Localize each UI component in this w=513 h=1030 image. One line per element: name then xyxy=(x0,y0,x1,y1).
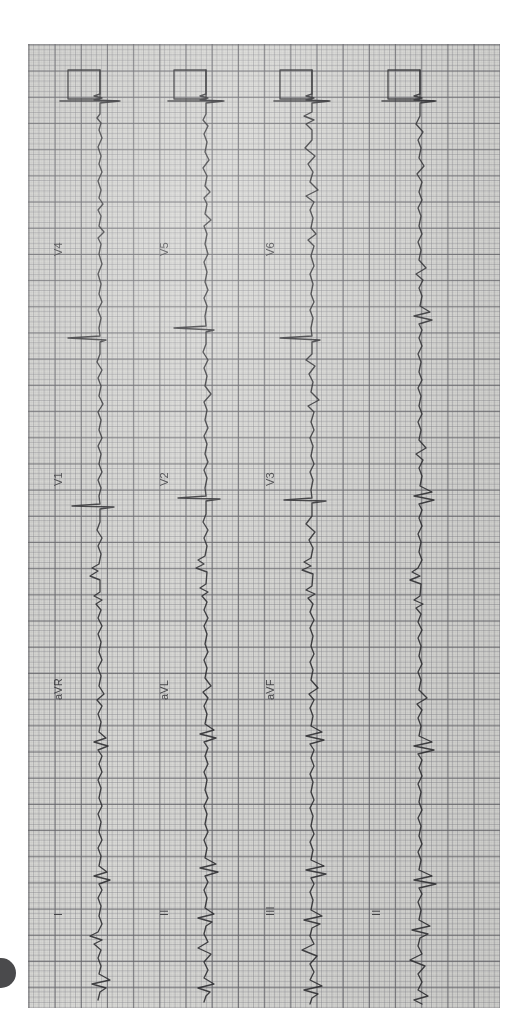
lead-label-avr: aVR xyxy=(52,678,64,700)
lead-label-v5: V5 xyxy=(158,242,170,256)
lead-label-v1: V1 xyxy=(52,472,64,486)
lead-label-v3: V3 xyxy=(264,472,276,486)
ecg-paper: V4 V5 V6 V1 V2 V3 aVR aVL aVF I II III I… xyxy=(28,44,500,1008)
ecg-photo: V4 V5 V6 V1 V2 V3 aVR aVL aVF I II III I… xyxy=(0,0,513,1030)
photo-margin-right xyxy=(500,0,513,1030)
lead-label-i: I xyxy=(52,913,64,916)
lead-label-ii-rhythm: II xyxy=(370,909,382,916)
lead-label-avl: aVL xyxy=(158,680,170,700)
ecg-traces xyxy=(28,44,500,1008)
lead-label-iii: III xyxy=(264,906,276,916)
lead-label-avf: aVF xyxy=(264,679,276,700)
photo-margin-left xyxy=(0,0,28,1030)
lead-label-v6: V6 xyxy=(264,242,276,256)
lead-label-v4: V4 xyxy=(52,242,64,256)
lead-label-v2: V2 xyxy=(158,472,170,486)
lead-label-ii: II xyxy=(158,909,170,916)
photo-margin-top xyxy=(0,0,513,44)
photo-margin-bottom xyxy=(0,1008,513,1030)
